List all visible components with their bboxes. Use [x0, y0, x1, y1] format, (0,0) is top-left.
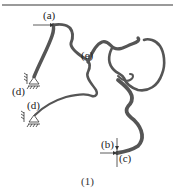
compliant-mechanism-diagram: (a) (e) (d) (d) (b) (c) — [0, 0, 175, 192]
label-a: (a) — [43, 9, 56, 22]
label-b: (b) — [101, 138, 114, 151]
input-arrow-a — [33, 23, 54, 27]
fixed-support-icon — [24, 73, 40, 89]
label-d-lower: (d) — [27, 99, 40, 112]
label-e: (e) — [81, 49, 94, 62]
label-c: (c) — [119, 152, 132, 165]
label-d-upper: (d) — [12, 85, 25, 98]
structure — [34, 24, 164, 153]
figure-caption: (1) — [0, 175, 175, 187]
